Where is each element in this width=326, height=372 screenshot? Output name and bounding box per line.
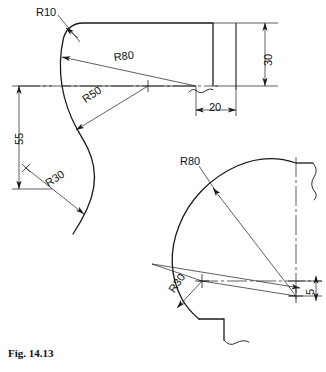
dimension-label-20: 20	[209, 101, 221, 113]
dimension-label-5: 5	[304, 289, 316, 295]
lower-r80-arc	[172, 159, 296, 319]
dimension-label-30: 30	[262, 54, 274, 66]
upper-break-line	[189, 89, 213, 93]
label-r10: R10	[36, 6, 56, 18]
r80-leader-line	[62, 57, 196, 86]
figure-caption: Fig. 14.13	[8, 347, 54, 359]
lower-break-line	[224, 340, 249, 344]
upper-view-group	[12, 15, 278, 234]
label-r80-upper: R80	[113, 49, 134, 63]
lower-step-outline	[199, 319, 224, 340]
upper-outline-path	[60, 23, 213, 234]
lower-chord-line	[202, 281, 296, 296]
r10-leader-arrow	[66, 28, 78, 38]
lower-right-break-line	[312, 163, 317, 200]
label-r80-lower: R80	[180, 155, 200, 167]
dimension-label-55: 55	[13, 133, 25, 145]
lower-r80-leader-line	[213, 188, 296, 296]
lower-view-group	[152, 157, 322, 344]
drawing-sheet: R10 R80 R50 R30 55 30 20 R80 R30 5 Fig. …	[0, 0, 326, 372]
r30-center-mark	[22, 164, 30, 172]
r10-leader-line	[58, 15, 80, 42]
